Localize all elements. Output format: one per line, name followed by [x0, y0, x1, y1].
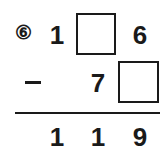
result-ones: 9 [130, 124, 150, 150]
subtrahend-ones-blank-box[interactable] [118, 61, 159, 103]
minuend-tens-blank-box[interactable] [76, 13, 116, 55]
problem-number: ⑥ [12, 22, 34, 44]
result-tens: 1 [88, 124, 108, 150]
answer-line [15, 112, 160, 114]
minuend-hundreds: 1 [47, 22, 67, 48]
subtrahend-tens: 7 [88, 70, 108, 96]
minuend-ones: 6 [130, 22, 150, 48]
minus-sign [25, 81, 41, 84]
result-hundreds: 1 [47, 124, 67, 150]
